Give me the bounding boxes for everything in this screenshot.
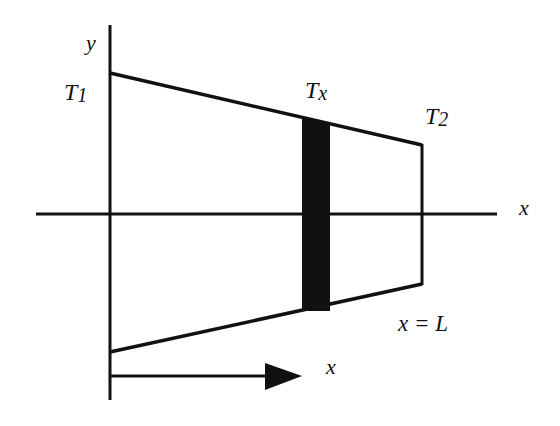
arrow-x-label: x: [325, 354, 336, 379]
rod-top-edge: [110, 73, 422, 145]
shaded-slab: [302, 117, 330, 311]
rod-bottom-edge: [110, 284, 422, 352]
t1-label: T1: [64, 79, 87, 106]
x-axis-label: x: [518, 195, 529, 220]
x-equals-l-label: x = L: [397, 311, 448, 336]
y-axis-label: y: [84, 30, 96, 55]
arrow-head-icon: [265, 363, 302, 390]
tx-label: Tx: [305, 77, 327, 104]
tapered-rod-diagram: y T1 Tx T2 x x = L x: [0, 0, 560, 426]
t2-label: T2: [425, 103, 448, 130]
